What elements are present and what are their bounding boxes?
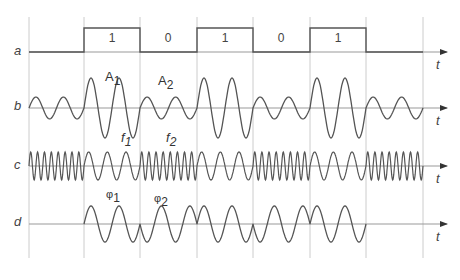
annotation-A2: A2 bbox=[158, 73, 173, 92]
axis-t-label-d: t bbox=[436, 229, 440, 244]
annotation-f1: f1 bbox=[121, 130, 131, 149]
row-label-c: c bbox=[14, 157, 21, 172]
row-label-a: a bbox=[14, 43, 21, 58]
axis-t-label-b: t bbox=[436, 113, 440, 128]
row-label-d: d bbox=[14, 214, 21, 229]
bit-2: 0 bbox=[158, 31, 178, 45]
row-label-b: b bbox=[14, 98, 21, 113]
bit-3: 1 bbox=[215, 31, 235, 45]
axis-t-label-a: t bbox=[436, 57, 440, 72]
annotation-A1: A1 bbox=[105, 69, 120, 88]
annotation-f2: f2 bbox=[166, 130, 176, 149]
annotation-phi1: φ1 bbox=[106, 188, 120, 205]
bit-4: 0 bbox=[271, 31, 291, 45]
annotation-phi2: φ2 bbox=[154, 192, 168, 209]
bit-1: 1 bbox=[102, 31, 122, 45]
waveforms bbox=[29, 28, 423, 242]
axis-t-label-c: t bbox=[436, 171, 440, 186]
bit-5: 1 bbox=[328, 31, 348, 45]
